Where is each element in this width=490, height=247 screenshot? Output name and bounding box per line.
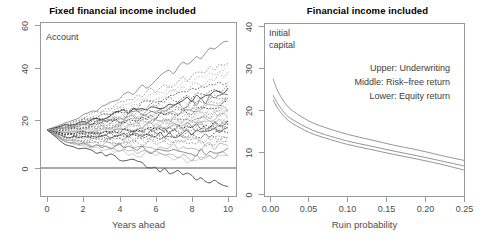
ruin-probability-curve (273, 79, 464, 161)
trajectory-line (47, 65, 228, 130)
left-panel-trajectories (0, 0, 245, 247)
trajectory-line (47, 88, 228, 130)
right-panel: Financial income included 40 30 20 10 0 … (245, 0, 490, 247)
left-panel: Fixed financial income included 60 40 20… (0, 0, 245, 247)
figure-panel-container: Fixed financial income included 60 40 20… (0, 0, 490, 247)
ruin-probability-curve (273, 95, 464, 166)
right-panel-curves (245, 0, 490, 247)
